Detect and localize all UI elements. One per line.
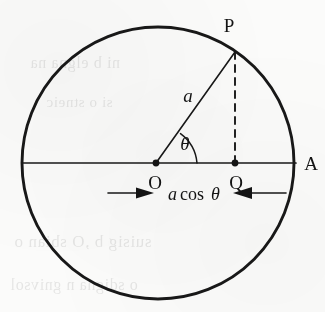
projection-theta-term: θ: [211, 184, 220, 204]
projection-cos-term: cos: [180, 184, 204, 204]
projection-a-term: a: [168, 184, 177, 204]
label-point-p: P: [224, 15, 235, 36]
label-point-o: O: [148, 172, 162, 193]
label-projection-expression: a cos θ: [168, 184, 220, 204]
point-q-dot: [232, 160, 239, 167]
figure-root: suisig b ,O sbian o o sdigna n gnivsol n…: [0, 0, 325, 312]
label-point-q: Q: [229, 172, 243, 193]
label-radius-a: a: [183, 85, 193, 106]
label-angle-theta: θ: [180, 133, 189, 154]
point-o-dot: [153, 160, 160, 167]
radius-segment-op: [156, 52, 235, 163]
dimension-arrow-left: [108, 188, 154, 199]
label-point-a: A: [304, 153, 318, 174]
circle-diagram-svg: P O Q A a θ a cos θ: [0, 0, 325, 312]
